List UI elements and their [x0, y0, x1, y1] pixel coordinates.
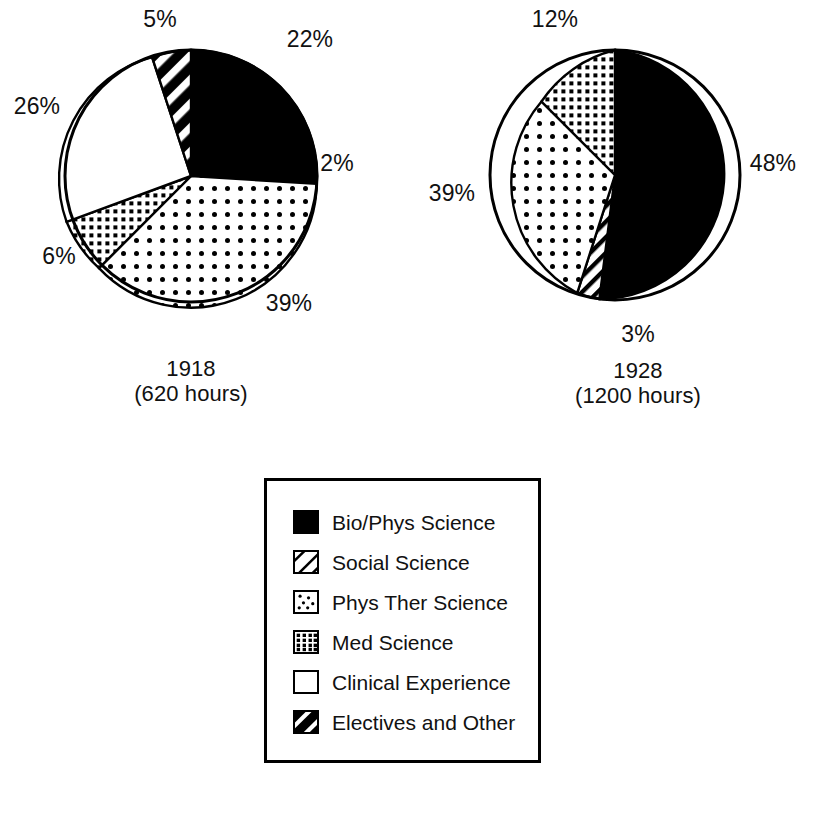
caption-1928-hours: (1200 hours): [575, 384, 701, 407]
legend-item-med-science: Med Science: [293, 622, 525, 662]
label-1928-med: 12%: [532, 8, 578, 31]
legend-label-med-science: Med Science: [332, 632, 453, 653]
label-1918-clinical: 26%: [14, 95, 60, 118]
legend-item-social-science: Social Science: [293, 542, 525, 582]
caption-1928-year: 1928: [613, 359, 662, 382]
legend-item-clinical-experience: Clinical Experience: [293, 662, 525, 702]
legend-list: Bio/Phys Science Social Science: [293, 502, 525, 742]
caption-1918-hours: (620 hours): [134, 382, 248, 405]
label-1918-social: 2%: [320, 152, 353, 175]
diagonal-hatch-bold-swatch-icon: [293, 710, 319, 734]
pie-chart-figure: 5% 22% 2% 39% 6% 26% 1918 (620 hours) 12…: [0, 0, 826, 815]
label-1918-phys-ther: 39%: [266, 292, 312, 315]
label-1928-bio-phys: 48%: [750, 152, 796, 175]
legend-item-phys-ther-science: Phys Ther Science: [293, 582, 525, 622]
pie-1918: [59, 50, 317, 308]
legend-label-phys-ther-science: Phys Ther Science: [332, 592, 508, 613]
pie-1928: [490, 50, 740, 300]
sparse-dots-swatch-icon: [293, 590, 319, 614]
label-1918-electives: 5%: [143, 8, 176, 31]
pies-svg-canvas: [0, 0, 826, 440]
legend-item-bio-phys-science: Bio/Phys Science: [293, 502, 525, 542]
caption-1918-year: 1918: [166, 357, 215, 380]
dense-grid-dots-swatch-icon: [293, 630, 319, 654]
legend-item-electives-and-other: Electives and Other: [293, 702, 525, 742]
legend-label-bio-phys-science: Bio/Phys Science: [332, 512, 495, 533]
label-1928-social: 3%: [621, 323, 654, 346]
legend-box: Bio/Phys Science Social Science: [264, 478, 541, 763]
solid-black-swatch-icon: [293, 510, 319, 534]
legend-label-social-science: Social Science: [332, 552, 470, 573]
diagonal-hatch-thin-swatch-icon: [293, 550, 319, 574]
label-1918-bio-phys: 22%: [287, 28, 333, 51]
label-1918-med: 6%: [42, 245, 75, 268]
label-1928-phys-ther: 39%: [429, 182, 475, 205]
white-empty-swatch-icon: [293, 670, 319, 694]
legend-label-clinical-experience: Clinical Experience: [332, 672, 511, 693]
legend-label-electives-and-other: Electives and Other: [332, 712, 515, 733]
